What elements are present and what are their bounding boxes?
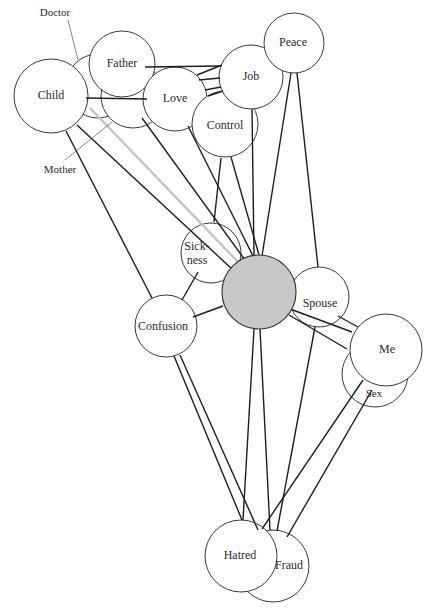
node-label-spouse: Spouse xyxy=(303,296,338,310)
node-label-me: Me xyxy=(379,342,395,356)
node-label-father: Father xyxy=(107,56,138,70)
edge-child-love xyxy=(86,98,147,99)
edge-center-fraud xyxy=(260,329,270,530)
node-label-confusion: Confusion xyxy=(138,319,188,333)
center-node-layer xyxy=(222,255,296,329)
node-label-love: Love xyxy=(163,91,188,105)
node-label-job: Job xyxy=(243,69,260,83)
edge-confusion-hatred xyxy=(174,356,242,520)
node-label-peace: Peace xyxy=(279,35,307,49)
node-label-control: Control xyxy=(207,118,244,132)
node-label-sickness: Sick-ness xyxy=(184,239,209,267)
edge-child-confusion xyxy=(66,131,152,298)
center-node xyxy=(222,255,296,329)
leader-line-doctor xyxy=(68,20,78,60)
node-label-fraud: Fraud xyxy=(275,558,303,572)
edge-confusion-center xyxy=(193,306,223,317)
node-label-doctor: Doctor xyxy=(40,6,71,18)
node-label-sex: Sex xyxy=(366,387,383,399)
edge-sex-hatred xyxy=(262,380,363,529)
leader-line-mother xyxy=(65,122,112,160)
edge-father-job xyxy=(145,66,220,67)
edge-love-job-c xyxy=(205,87,221,90)
edge-center-hatred xyxy=(243,329,254,520)
edge-sickness-confusion xyxy=(182,272,198,300)
edge-spouse-me xyxy=(338,316,358,327)
edge-confusion-fraud xyxy=(180,355,258,530)
edge-spouse-fraud xyxy=(277,327,315,531)
node-label-mother: Mother xyxy=(44,163,77,175)
edge-love-job-b xyxy=(199,78,220,80)
edge-peace-spouse xyxy=(297,73,318,267)
node-label-hatred: Hatred xyxy=(224,548,257,562)
concept-network-diagram: DoctorMotherChildFatherLoveControlJobPea… xyxy=(0,0,438,609)
node-label-child: Child xyxy=(38,88,65,102)
